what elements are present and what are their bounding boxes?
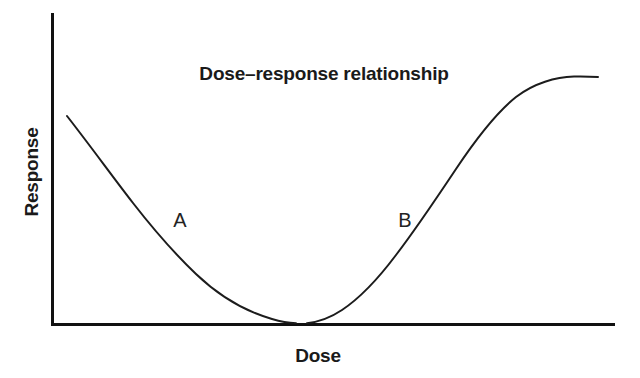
y-axis-label: Response [22,127,41,216]
curve-b-path [307,76,598,323]
dose-response-chart-figure: Dose–response relationship Response Dose… [0,0,640,378]
curve-label-a: A [173,210,186,230]
chart-plot-area [0,0,640,378]
chart-title: Dose–response relationship [199,64,448,83]
x-axis-label: Dose [295,346,341,365]
curve-label-b: B [398,210,411,230]
